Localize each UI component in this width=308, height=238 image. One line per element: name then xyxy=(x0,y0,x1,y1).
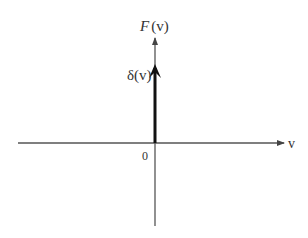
delta-function-diagram: F(v) δ(v) v 0 xyxy=(0,0,308,238)
x-axis-label: v xyxy=(288,136,295,151)
y-axis-label: F(v) xyxy=(139,18,169,35)
origin-label: 0 xyxy=(142,149,148,163)
impulse-label: δ(v) xyxy=(127,67,152,84)
